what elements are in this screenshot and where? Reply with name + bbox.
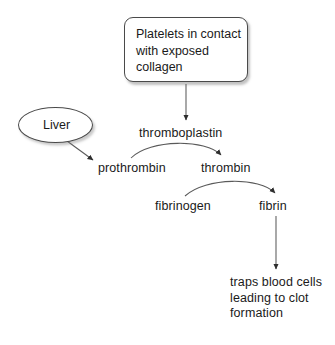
node-platelets-label: Platelets in contact with exposed collag…: [136, 26, 244, 76]
node-platelets-box: Platelets in contact with exposed collag…: [124, 17, 248, 82]
node-fibrin-label: fibrin: [259, 199, 287, 215]
clotting-cascade-diagram: Platelets in contact with exposed collag…: [0, 0, 335, 345]
node-liver-ellipse: Liver: [18, 107, 93, 143]
arrow-fibrinogen-to-fibrin: [185, 181, 275, 196]
node-prothrombin-label: prothrombin: [98, 161, 166, 177]
arrow-liver-to-prothrombin: [67, 141, 93, 160]
arrow-prothrombin-to-thrombin: [131, 143, 221, 158]
node-clot-outcome-label: traps blood cells leading to clot format…: [230, 275, 335, 322]
node-liver-label: Liver: [19, 118, 94, 132]
node-thromboplastin-label: thromboplastin: [139, 126, 222, 142]
node-fibrinogen-label: fibrinogen: [155, 199, 211, 215]
node-thrombin-label: thrombin: [201, 161, 250, 177]
